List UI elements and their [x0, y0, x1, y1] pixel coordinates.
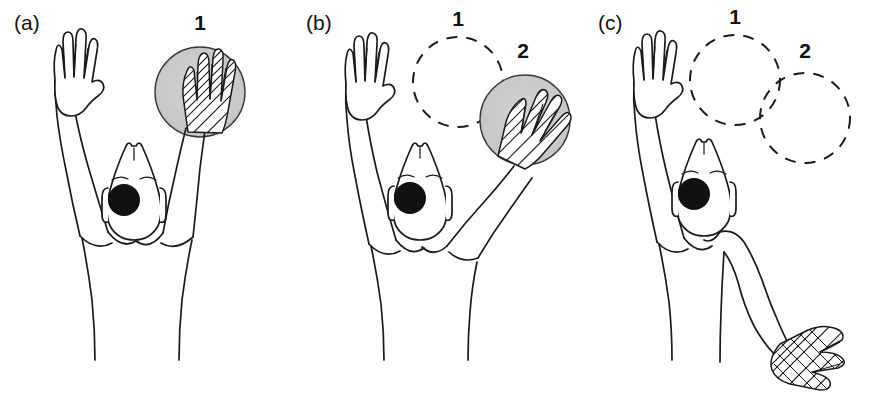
ball-2-number: 2 [799, 39, 811, 62]
panel-label-c: (c) [598, 11, 623, 34]
figure-container: (a) 1 [0, 0, 875, 400]
torso-group [657, 232, 724, 362]
panel-c: (c) 1 2 [584, 0, 875, 400]
ear-right-icon [446, 186, 452, 220]
ball-1-number: 1 [729, 5, 741, 28]
right-arm-inner-edge [193, 130, 205, 237]
ball-1-number: 1 [452, 7, 464, 30]
head-group [102, 143, 166, 240]
ball-2-dashed [760, 73, 850, 163]
right-arm-outer-edge [447, 166, 514, 246]
ear-right-icon [160, 188, 166, 222]
head-group [672, 139, 736, 236]
panel-b: (b) 1 2 [292, 0, 584, 400]
panel-a-drawing: (a) 1 [0, 0, 292, 400]
right-arm-inner-edge [478, 178, 532, 258]
left-arm-open-hand [54, 29, 108, 236]
panel-b-drawing: (b) 1 2 [292, 0, 584, 400]
ball-2-number: 2 [517, 39, 529, 62]
crown-spot [678, 178, 710, 210]
right-hand-hatched-lowered [764, 310, 874, 400]
head-group [388, 143, 452, 240]
panel-c-drawing: (c) 1 2 [584, 0, 875, 400]
ear-right-icon [730, 182, 736, 216]
ball-1-number: 1 [194, 11, 206, 34]
torso-group [80, 232, 193, 360]
ear-left-icon [388, 186, 394, 220]
ball-1-dashed [690, 35, 780, 125]
ear-left-icon [102, 188, 108, 222]
crown-spot [394, 182, 426, 214]
ear-left-icon [672, 182, 678, 216]
panel-a: (a) 1 [0, 0, 292, 400]
crown-spot [108, 184, 140, 216]
right-arm-lowered [720, 231, 792, 356]
panel-label-a: (a) [14, 11, 40, 34]
torso-group [369, 240, 478, 360]
panel-label-b: (b) [306, 11, 332, 34]
